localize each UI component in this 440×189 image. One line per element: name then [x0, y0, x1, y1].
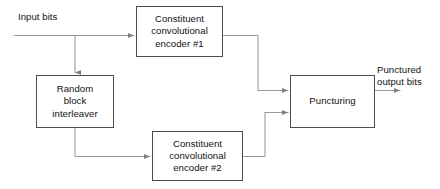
punctured-output-bits-label: Punctured output bits	[377, 64, 422, 88]
block-label: Puncturing	[307, 95, 357, 107]
block-puncturing: Puncturing	[290, 75, 375, 128]
wire-interleaver-to-encoder2	[75, 128, 150, 157]
block-constituent-convolutional-encoder-1: Constituent convolutional encoder #1	[136, 6, 223, 57]
wire-encoder2-to-puncturing	[243, 113, 288, 157]
block-label: Random block interleaver	[50, 83, 99, 120]
block-diagram: Constituent convolutional encoder #1 Ran…	[0, 0, 440, 189]
block-label: Constituent convolutional encoder #2	[167, 138, 228, 175]
input-bits-label: Input bits	[18, 11, 57, 23]
block-constituent-convolutional-encoder-2: Constituent convolutional encoder #2	[152, 131, 243, 181]
wire-encoder1-to-puncturing	[223, 36, 288, 91]
block-label: Constituent convolutional encoder #1	[149, 13, 210, 50]
block-random-block-interleaver: Random block interleaver	[36, 75, 114, 128]
